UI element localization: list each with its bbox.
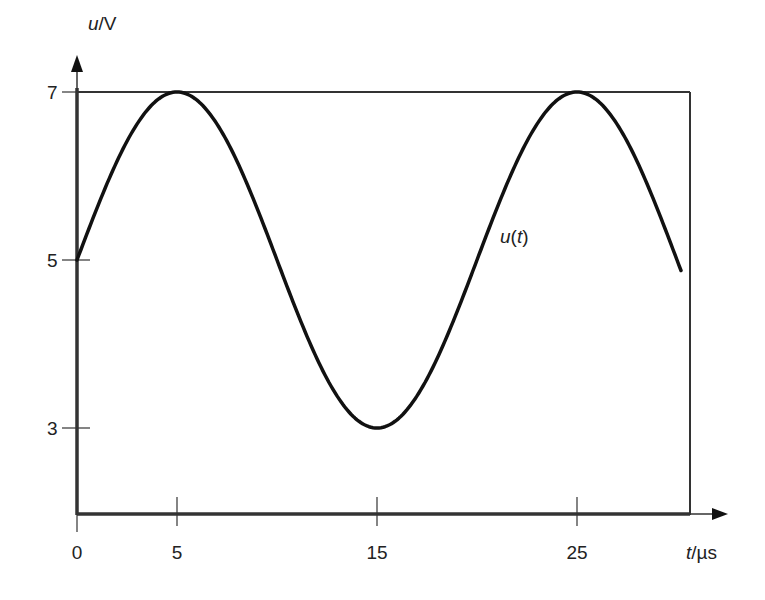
ytick-label-3: 3	[47, 418, 58, 439]
xtick-label-5: 5	[172, 542, 183, 563]
xtick-label-15: 15	[366, 542, 387, 563]
xtick-label-0: 0	[72, 542, 83, 563]
curve-label: u(t)	[500, 226, 529, 247]
ytick-label-7: 7	[47, 82, 58, 103]
ytick-label-5: 5	[47, 250, 58, 271]
voltage-chart: 7 5 3 0 5 15 25 u/V t/µs u(t)	[0, 0, 765, 600]
y-axis-arrow-icon	[71, 55, 83, 72]
xtick-label-25: 25	[566, 542, 587, 563]
series-u-t-curve	[77, 92, 681, 428]
x-axis-arrow-icon	[712, 508, 728, 520]
x-axis-title: t/µs	[686, 542, 717, 563]
y-axis-title: u/V	[88, 13, 117, 34]
